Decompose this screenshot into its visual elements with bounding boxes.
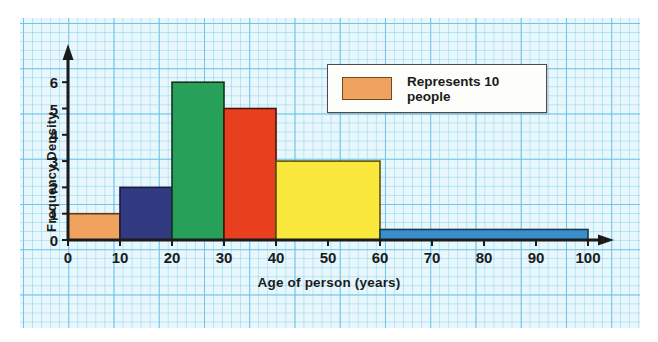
legend-label: Represents 10 people [407,74,546,104]
bar-40-60 [276,161,380,240]
x-tick-label-100: 100 [568,250,608,265]
legend-box: Represents 10 people [327,64,547,113]
y-tick-label-0: 0 [38,233,58,248]
x-tick-label-60: 60 [360,250,400,265]
x-tick-label-50: 50 [308,250,348,265]
x-tick-label-0: 0 [48,250,88,265]
y-tick-label-6: 6 [38,75,58,90]
bar-0-10 [68,214,120,240]
x-tick-label-90: 90 [516,250,556,265]
chart-image: 0 10 20 30 40 50 60 70 80 90 100 0 1 2 3… [0,0,658,342]
bar-30-40 [224,109,276,241]
y-axis-title: Frequency Density [45,112,58,232]
bar-20-30 [172,82,224,240]
x-tick-label-30: 30 [204,250,244,265]
x-axis-title: Age of person (years) [0,276,658,290]
x-tick-label-70: 70 [412,250,452,265]
x-tick-label-20: 20 [152,250,192,265]
x-tick-label-10: 10 [100,250,140,265]
y-axis [63,44,74,240]
bar-60-100 [380,229,588,240]
bar-10-20 [120,187,172,240]
legend-color-swatch [342,77,392,100]
x-tick-label-40: 40 [256,250,296,265]
histogram-plot [0,0,658,342]
x-tick-label-80: 80 [464,250,504,265]
